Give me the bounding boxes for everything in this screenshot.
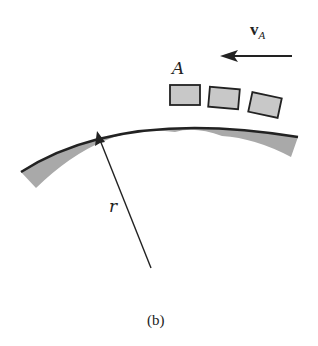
diagram-canvas — [0, 0, 318, 346]
figure-caption: (b) — [147, 312, 165, 329]
block-2 — [208, 87, 240, 110]
radius-label: r — [109, 196, 117, 216]
radius-arrow-shaft — [100, 140, 151, 268]
block-label: A — [172, 58, 184, 78]
block-1 — [170, 85, 200, 105]
block-3 — [248, 92, 282, 118]
curved-surface — [21, 128, 298, 188]
velocity-label: vA — [250, 20, 265, 41]
velocity-subscript: A — [259, 29, 266, 41]
velocity-symbol: v — [250, 20, 259, 39]
